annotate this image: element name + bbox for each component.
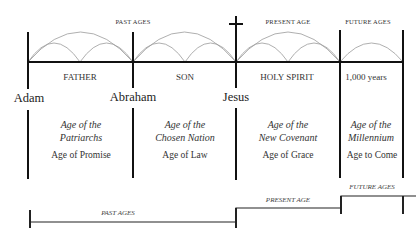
top-label-past-ages: PAST AGES: [115, 18, 150, 25]
bottom-step-timeline: [30, 196, 416, 222]
age-grace: Age of Grace: [262, 150, 313, 160]
age-arcs: [28, 32, 403, 62]
age-title-line2: Millennium: [348, 131, 394, 144]
age-law: Age of Law: [162, 150, 207, 160]
age-title-line1: Age of the: [155, 118, 215, 131]
age-title-line2: New Covenant: [259, 131, 318, 144]
era-1000-years: 1,000 years: [345, 72, 387, 82]
age-title-line1: Age of the: [259, 118, 318, 131]
age-title-line1: Age of the: [348, 118, 394, 131]
era-holy-spirit: HOLY SPIRIT: [260, 72, 314, 82]
bottom-label-past-ages: PAST AGES: [101, 209, 135, 217]
marker-abraham: Abraham: [110, 90, 157, 105]
age-to-come: Age to Come: [347, 150, 398, 160]
age-patriarchs-title: Age of the Patriarchs: [60, 118, 102, 144]
age-promise: Age of Promise: [51, 150, 111, 160]
age-title-line1: Age of the: [60, 118, 102, 131]
bottom-label-future-ages: FUTURE AGES: [349, 183, 395, 191]
age-new-covenant-title: Age of the New Covenant: [259, 118, 318, 144]
age-title-line2: Chosen Nation: [155, 131, 215, 144]
age-chosen-nation-title: Age of the Chosen Nation: [155, 118, 215, 144]
era-son: SON: [176, 72, 194, 82]
top-label-present-age: PRESENT AGE: [266, 18, 311, 25]
age-title-line2: Patriarchs: [60, 131, 102, 144]
era-father: FATHER: [63, 72, 96, 82]
age-millennium-title: Age of the Millennium: [348, 118, 394, 144]
marker-adam: Adam: [14, 91, 45, 106]
marker-jesus: Jesus: [223, 90, 249, 105]
bottom-label-present-age: PRESENT AGE: [266, 196, 310, 204]
top-label-future-ages: FUTURE AGES: [345, 18, 391, 25]
